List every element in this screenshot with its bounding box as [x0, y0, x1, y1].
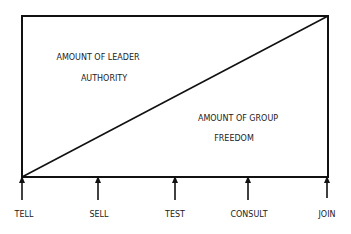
- diagonal-divider: [22, 16, 328, 177]
- arrow-icon: [172, 176, 178, 200]
- style-label-sell: SELL: [89, 210, 108, 219]
- group-freedom-label-line1: AMOUNT OF GROUP: [198, 114, 278, 123]
- arrow-icon: [245, 176, 251, 200]
- style-label-consult: CONSULT: [230, 210, 267, 219]
- style-label-join: JOIN: [319, 210, 336, 219]
- group-freedom-label-line2: FREEDOM: [214, 134, 254, 143]
- arrow-icon: [19, 176, 25, 200]
- arrow-icon: [95, 176, 101, 200]
- leader-authority-label-line1: AMOUNT OF LEADER: [56, 53, 139, 62]
- leader-authority-label-line2: AUTHORITY: [81, 74, 127, 83]
- style-label-tell: TELL: [15, 210, 34, 219]
- arrow-icon: [324, 176, 330, 198]
- continuum-diagram: [0, 0, 351, 234]
- style-label-test: TEST: [165, 210, 185, 219]
